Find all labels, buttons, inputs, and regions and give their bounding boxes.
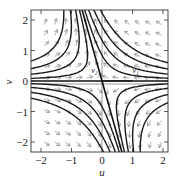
eigenvector-v1-label: v₁ — [133, 66, 140, 75]
field-arrow — [76, 142, 80, 146]
trajectory-curve — [97, 4, 183, 67]
field-arrow — [87, 77, 93, 78]
field-arrow — [135, 43, 140, 46]
field-arrow — [65, 77, 71, 78]
phase-portrait-chart: −2−1012 −2−1012 u v v₁ v₂ — [0, 0, 183, 179]
field-arrow — [55, 89, 61, 90]
field-arrow — [44, 99, 50, 101]
field-arrow — [114, 53, 119, 57]
field-arrow — [145, 66, 151, 67]
y-tick-label: 0 — [23, 75, 29, 87]
field-arrow — [55, 110, 60, 112]
field-arrow — [156, 21, 161, 24]
field-arrow — [55, 30, 58, 35]
field-arrow — [146, 32, 151, 35]
y-tick-label: 2 — [23, 14, 29, 26]
field-arrow — [44, 131, 49, 134]
field-arrow — [149, 131, 151, 137]
field-arrow — [55, 131, 60, 134]
field-arrow — [125, 20, 129, 24]
field-arrow — [44, 110, 50, 112]
field-arrow — [44, 42, 48, 46]
field-arrow — [76, 64, 81, 68]
field-arrow — [113, 77, 119, 78]
x-tick-label: 0 — [99, 154, 105, 166]
field-arrow — [114, 64, 119, 67]
field-arrow — [55, 99, 61, 101]
field-arrow — [129, 142, 130, 148]
field-arrow — [115, 20, 119, 25]
field-arrow — [97, 89, 102, 93]
field-arrow — [87, 142, 91, 147]
field-arrow — [44, 66, 50, 68]
field-arrow — [156, 55, 162, 57]
field-arrow — [129, 121, 130, 127]
field-arrow — [156, 99, 162, 101]
eigenvector-v2-label: v₂ — [91, 66, 98, 75]
trajectory-curve — [91, 4, 183, 72]
field-arrow — [55, 65, 61, 67]
field-arrow — [87, 110, 91, 114]
y-axis-label: v — [2, 79, 14, 84]
field-arrow — [55, 121, 60, 124]
field-arrow — [107, 89, 108, 95]
field-arrow — [158, 131, 161, 136]
field-arrow — [138, 121, 140, 127]
trajectory-curve — [13, 95, 107, 158]
field-arrow — [145, 89, 151, 90]
field-arrow — [127, 110, 129, 116]
y-tick-label: −1 — [16, 106, 28, 118]
field-arrow — [44, 121, 49, 124]
field-arrow — [55, 53, 60, 57]
field-arrow — [104, 52, 108, 57]
field-arrow — [75, 19, 76, 25]
field-arrow — [146, 110, 150, 114]
trajectory-curve — [140, 96, 183, 158]
field-arrow — [65, 52, 69, 56]
field-arrow — [65, 29, 66, 35]
x-tick-label: −1 — [66, 154, 78, 166]
field-arrow — [65, 142, 70, 146]
field-arrow — [76, 131, 80, 135]
field-arrow — [95, 19, 98, 24]
field-arrow — [76, 110, 81, 113]
field-arrow — [134, 89, 140, 90]
field-arrow — [114, 89, 119, 92]
field-arrow — [156, 43, 161, 45]
x-tick-label: 2 — [160, 154, 166, 166]
trajectory-curve — [87, 4, 184, 76]
field-arrow — [65, 121, 70, 124]
x-tick-label: 1 — [130, 154, 136, 166]
field-arrow — [76, 40, 77, 46]
trajectory-curve — [12, 4, 64, 66]
field-arrow — [135, 32, 140, 35]
field-arrow — [156, 110, 161, 113]
y-tick-label: −2 — [16, 136, 28, 148]
field-arrow — [135, 21, 140, 25]
x-axis-label: u — [99, 166, 105, 178]
field-arrow — [65, 89, 71, 90]
x-tick-labels: −2−1012 — [35, 154, 166, 166]
field-arrow — [87, 99, 92, 102]
field-arrow — [97, 121, 100, 126]
field-arrow — [87, 89, 93, 91]
field-arrow — [108, 142, 111, 147]
field-arrow — [145, 43, 150, 46]
field-arrow — [44, 30, 47, 35]
field-arrow — [65, 41, 68, 46]
field-arrow — [125, 31, 130, 35]
field-arrow — [103, 76, 109, 78]
field-arrow — [76, 77, 82, 78]
field-arrow — [147, 121, 150, 126]
y-tick-label: 1 — [23, 45, 29, 57]
field-arrow — [159, 142, 161, 148]
field-arrow — [76, 99, 81, 102]
field-arrow — [65, 131, 70, 135]
field-arrow — [157, 121, 161, 125]
field-arrow — [135, 99, 140, 102]
field-arrow — [139, 131, 140, 137]
field-arrow — [55, 19, 57, 25]
field-arrow — [55, 142, 60, 146]
field-arrow — [156, 32, 161, 35]
field-arrow — [135, 54, 140, 57]
